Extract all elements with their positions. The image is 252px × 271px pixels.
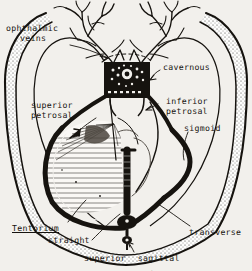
label-cavernous: cavernous bbox=[163, 63, 210, 73]
label-ophthalmic-veins-line1: ophthalmic bbox=[6, 23, 58, 33]
label-superior-petrosal: superior petrosal bbox=[31, 100, 73, 120]
sigmoid-sinus bbox=[164, 130, 190, 198]
label-superior-petrosal-line1: superior bbox=[31, 100, 73, 110]
label-ophthalmic-veins-line2: veins bbox=[20, 33, 58, 43]
label-superior-sagittal-word2: sagittal bbox=[138, 253, 180, 263]
label-inferior-petrosal: inferior petrosal bbox=[166, 96, 208, 116]
scan-bleed-text: . bbox=[150, 265, 154, 271]
label-superior-sagittal: superiorsagittal bbox=[84, 254, 180, 264]
venous-sinus-diagram: ophthalmic veins cavernous inferior petr… bbox=[0, 0, 252, 271]
label-straight: straight bbox=[48, 236, 90, 246]
label-ophthalmic-veins: ophthalmic veins bbox=[6, 23, 58, 43]
label-tentorium-text: Tentorium bbox=[12, 223, 59, 233]
ophthalmic-veins bbox=[54, 1, 200, 62]
label-sigmoid: sigmoid bbox=[184, 124, 221, 134]
label-inferior-petrosal-line2: petrosal bbox=[166, 106, 208, 116]
confluence-of-sinuses bbox=[117, 215, 137, 250]
leader-transverse bbox=[158, 204, 190, 226]
label-tentorium: Tentorium bbox=[12, 224, 59, 234]
label-superior-petrosal-line2: petrosal bbox=[31, 110, 73, 120]
label-transverse: transverse bbox=[189, 228, 241, 238]
label-inferior-petrosal-line1: inferior bbox=[166, 96, 208, 106]
label-superior-sagittal-word1: superior bbox=[84, 253, 126, 263]
